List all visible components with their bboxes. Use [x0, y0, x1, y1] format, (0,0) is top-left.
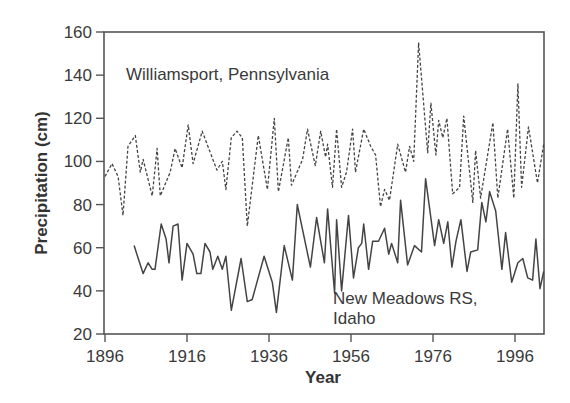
y-tick-label: 60 [73, 239, 92, 258]
y-axis-title: Precipitation (cm) [32, 111, 51, 255]
y-tick-label: 140 [64, 66, 92, 85]
x-tick-label: 1916 [168, 347, 206, 366]
x-tick-label: 1936 [250, 347, 288, 366]
x-tick-label: 1976 [414, 347, 452, 366]
x-tick-label: 1896 [86, 347, 124, 366]
y-tick-label: 40 [73, 282, 92, 301]
x-axis-ticks: 189619161936195619761996 [86, 334, 534, 366]
y-tick-label: 120 [64, 109, 92, 128]
annotation-new-meadows-line1: New Meadows RS, [333, 289, 478, 308]
x-tick-label: 1996 [496, 347, 534, 366]
x-axis-title: Year [305, 368, 341, 387]
y-tick-label: 100 [64, 152, 92, 171]
y-tick-label: 80 [73, 196, 92, 215]
y-tick-label: 160 [64, 23, 92, 42]
y-axis-ticks: 20406080100120140160 [64, 23, 104, 344]
y-tick-label: 20 [73, 325, 92, 344]
annotation-new-meadows-line2: Idaho [333, 309, 376, 328]
precipitation-chart: 20406080100120140160 1896191619361956197… [0, 0, 570, 403]
annotation-williamsport: Williamsport, Pennsylvania [126, 65, 330, 84]
x-tick-label: 1956 [332, 347, 370, 366]
